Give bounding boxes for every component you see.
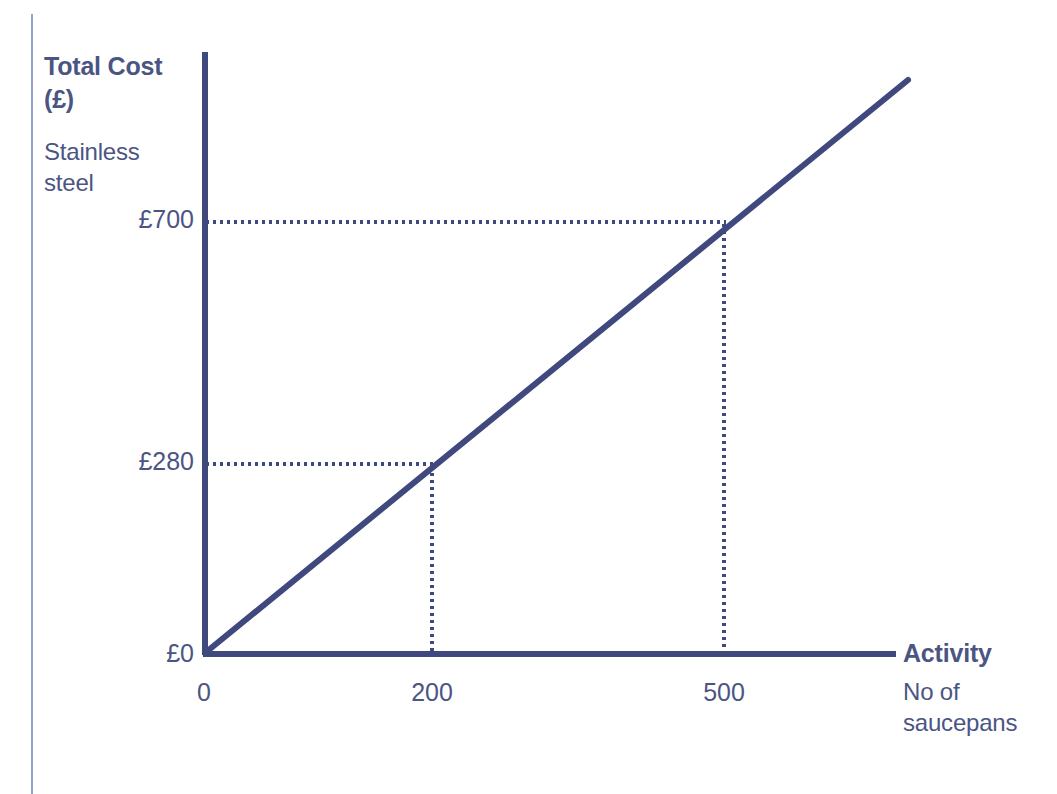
y-tick-label-280: £280 (34, 447, 194, 476)
y-axis-title: Total Cost(£) (44, 50, 162, 115)
x-axis-subtitle-line2: saucepans (903, 709, 1017, 736)
cost-line-chart (0, 0, 1057, 794)
y-axis-subtitle-line2: steel (44, 169, 94, 196)
y-axis-title-line2: (£) (44, 85, 74, 113)
y-axis-subtitle: Stainlesssteel (44, 136, 140, 198)
x-axis-title: Activity (903, 637, 992, 670)
y-axis-title-line1: Total Cost (44, 52, 162, 80)
y-tick-label-0: £0 (34, 639, 194, 668)
x-tick-label-500: 500 (664, 678, 784, 707)
y-axis-subtitle-line1: Stainless (44, 138, 140, 165)
y-tick-label-700: £700 (34, 205, 194, 234)
total-cost-line (205, 80, 908, 653)
x-tick-label-0: 0 (144, 678, 264, 707)
chart-canvas: Total Cost(£) Stainlesssteel £700 £280 £… (0, 0, 1057, 794)
x-axis-subtitle-line1: No of (903, 678, 959, 705)
x-axis-subtitle: No ofsaucepans (903, 676, 1017, 738)
x-tick-label-200: 200 (372, 678, 492, 707)
